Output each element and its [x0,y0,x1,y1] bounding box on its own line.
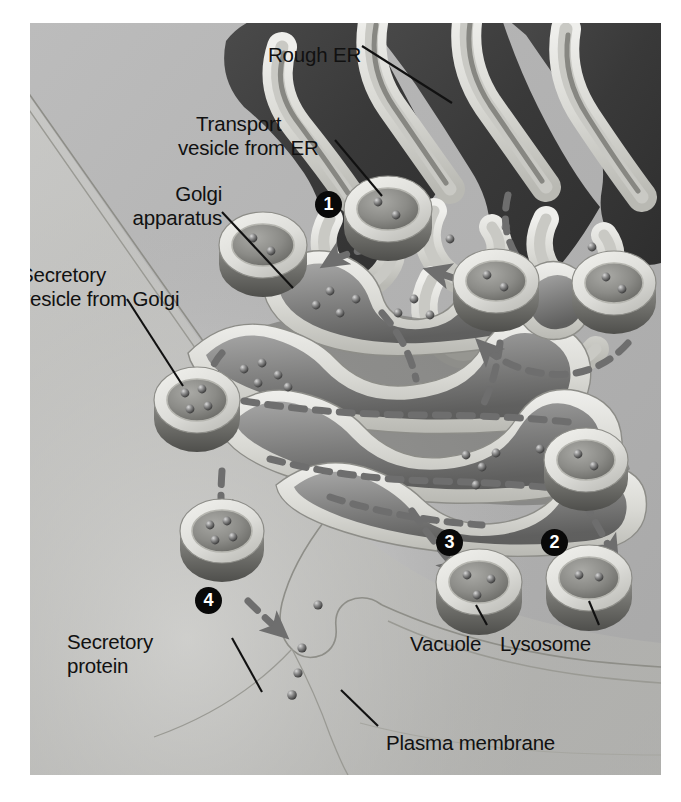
step-badge-4: 4 [195,587,222,614]
label-secretory-protein-line1: Secretory [67,630,153,654]
label-secretory-vesicle-line1: Secretory [30,263,106,287]
label-plasma-membrane: Plasma membrane [386,731,555,755]
label-golgi-line2: apparatus [30,206,222,230]
label-golgi-line1: Golgi [30,182,222,206]
vesicle-er-c [572,251,656,334]
lysosome-graphic [546,545,632,631]
secretory-protein-dot [297,643,306,652]
vesicle-secretory [180,499,264,582]
step-badge-1: 1 [315,191,342,218]
vesicle-lyso-src [544,428,628,511]
label-transport-vesicle-line1: Transport [196,112,281,136]
vacuole-graphic [436,549,522,635]
cell-diagram-canvas: Rough ER Transport vesicle from ER Golgi… [30,23,661,775]
label-vacuole: Vacuole [410,632,481,656]
secretory-protein-dot [287,690,297,700]
step-badge-2: 2 [541,529,568,556]
vesicle-er-a [344,176,432,261]
label-lysosome: Lysosome [500,632,591,656]
vesicle-er-b [453,249,539,332]
diagram-page: Rough ER Transport vesicle from ER Golgi… [0,0,681,802]
ribosome-dot [588,243,597,252]
label-transport-vesicle-line2: vesicle from ER [178,136,319,160]
ribosome-dot [446,235,455,244]
secretory-protein-dot [293,668,302,677]
secretory-protein-dot [313,600,322,609]
label-rough-er: Rough ER [268,43,361,67]
label-secretory-protein-line2: protein [67,654,128,678]
step-badge-3: 3 [436,529,463,556]
label-secretory-vesicle-line2: vesicle from Golgi [30,287,179,311]
vesicle-golgi-out [154,367,240,452]
